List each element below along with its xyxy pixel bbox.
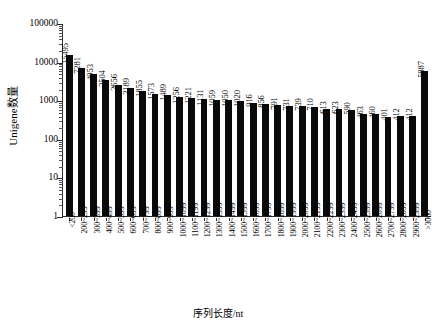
bar-slot: 3504: [102, 24, 109, 217]
bar-value-text: 1855: [134, 81, 143, 98]
bar-value-text: 463: [355, 106, 364, 118]
bar-value-text: 1131: [196, 89, 205, 105]
x-axis-tick-label-text: 300~399: [94, 207, 102, 234]
bar-value-text: 412: [392, 108, 401, 120]
bar[interactable]: [176, 97, 183, 217]
bar-value-text: 1256: [171, 87, 180, 104]
bar-slot: 916: [250, 24, 257, 217]
bar-value-text: 613: [318, 101, 327, 113]
bar[interactable]: [336, 109, 343, 217]
bar[interactable]: [421, 71, 428, 217]
bar[interactable]: [127, 88, 134, 217]
bar-slot: 1256: [176, 24, 183, 217]
y-axis-tick-label: 100000: [30, 19, 59, 29]
bar[interactable]: [225, 100, 232, 217]
x-axis-tick-label-text: 1100~1199: [192, 203, 200, 237]
bar-slot: 1131: [201, 24, 208, 217]
x-axis-tick-label-text: 1700~1799: [265, 203, 273, 238]
bar[interactable]: [164, 95, 171, 217]
x-axis-tick-label-text: 1300~1399: [216, 203, 224, 238]
bar-value-text: 856: [257, 96, 266, 108]
plot-area: 1549572814953350426562189185515731489125…: [63, 24, 431, 217]
bar-slot: 1573: [152, 24, 159, 217]
bar-slot: 2189: [127, 24, 134, 217]
y-axis-tick-labels: 100000100001000100101: [14, 0, 62, 232]
x-axis-tick-label-text: <200: [69, 212, 77, 228]
bar-slot: 590: [348, 24, 355, 217]
bar-value-text: 1050: [220, 90, 229, 107]
bar[interactable]: [102, 80, 109, 217]
bar-value-text: 916: [245, 94, 254, 106]
x-axis-tick-label-text: 400~499: [106, 207, 114, 234]
bar-value-text: 1059: [208, 90, 217, 107]
bar-slot: 731: [286, 24, 293, 217]
bar-slot: 1050: [225, 24, 232, 217]
bar-slot: 710: [311, 24, 318, 217]
bar[interactable]: [299, 106, 306, 217]
bar-slot: 791: [274, 24, 281, 217]
bar[interactable]: [286, 106, 293, 217]
bar[interactable]: [213, 100, 220, 217]
x-axis-tick-label-text: 700~799: [143, 207, 151, 234]
x-axis-tick-label-text: 2100~2199: [314, 203, 322, 238]
bar[interactable]: [115, 85, 122, 217]
bar-value-text: 710: [306, 99, 315, 111]
bar-slot: 1221: [188, 24, 195, 217]
bar[interactable]: [323, 109, 330, 217]
bar-value-text: 460: [367, 106, 376, 118]
bar[interactable]: [78, 68, 85, 217]
bar-value-text: 1489: [159, 84, 168, 101]
y-axis-tick-label: 100: [44, 135, 58, 145]
bar-value-text: 590: [343, 102, 352, 114]
bar-value-text: 2189: [122, 78, 131, 95]
bar-slot: 463: [360, 24, 367, 217]
bar-value-text: 791: [269, 97, 278, 109]
x-axis-tick-label-text: 1000~1099: [180, 203, 188, 238]
x-axis-tick-label-text: 1500~1599: [241, 203, 249, 238]
x-axis-tick-label-text: 600~699: [130, 207, 138, 234]
x-axis-tick-label-text: 2200~2299: [327, 203, 335, 238]
bar[interactable]: [201, 99, 208, 217]
x-axis-tick-label-text: >3000: [425, 210, 433, 230]
bar-slot: 1489: [164, 24, 171, 217]
x-axis-tick-label-text: 2500~2599: [364, 203, 372, 238]
bar-slot: 1855: [139, 24, 146, 217]
bar[interactable]: [274, 105, 281, 217]
x-axis-tick-label-text: 2800~2899: [400, 203, 408, 238]
bar[interactable]: [139, 91, 146, 217]
x-axis-tick-label-text: 800~899: [155, 207, 163, 234]
bar[interactable]: [262, 104, 269, 217]
x-axis-tick-label-text: 2300~2399: [339, 203, 347, 238]
bar[interactable]: [66, 55, 73, 217]
bar-slot: 623: [336, 24, 343, 217]
bar[interactable]: [311, 107, 318, 217]
bar[interactable]: [237, 101, 244, 217]
bar[interactable]: [250, 103, 257, 217]
bar-value-text: 731: [281, 98, 290, 110]
bar-value-text: 4953: [85, 64, 94, 81]
bar-slot: 1020: [237, 24, 244, 217]
x-axis-tick-label-text: 1900~1999: [290, 203, 298, 238]
bar-value-text: 1573: [146, 83, 155, 100]
x-axis-tick-labels: <200200~299300~399400~499500~599600~6997…: [63, 218, 431, 300]
x-axis-tick-label-text: 2600~2699: [376, 203, 384, 238]
bar[interactable]: [90, 74, 97, 217]
bar-value-text: 3504: [97, 70, 106, 87]
bar-slot: 15495: [66, 24, 73, 217]
bar-slot: 739: [299, 24, 306, 217]
bar[interactable]: [188, 98, 195, 217]
x-axis-tick-label-text: 1600~1699: [253, 203, 261, 238]
bar-value-text: 739: [294, 98, 303, 110]
x-axis-tick-label-text: 2000~2099: [302, 203, 310, 238]
bar[interactable]: [348, 110, 355, 217]
bar-value-text: 623: [330, 101, 339, 113]
bar-slot: 2656: [115, 24, 122, 217]
x-axis-tick-label-text: 200~299: [81, 207, 89, 234]
unigene-length-distribution-chart: Unigene数量 100000100001000100101 15495728…: [0, 0, 436, 325]
bar-value-text: 2656: [110, 75, 119, 92]
x-axis-tick-label-text: 900~999: [167, 207, 175, 234]
x-axis-tick-label-text: 2400~2499: [351, 203, 359, 238]
bar[interactable]: [152, 94, 159, 217]
y-axis-tick-label: 1000: [39, 96, 58, 106]
x-axis-tick-label-text: 500~599: [118, 207, 126, 234]
